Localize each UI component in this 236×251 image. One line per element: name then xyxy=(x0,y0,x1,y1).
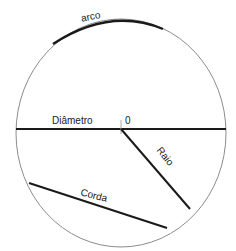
radius-line xyxy=(121,129,190,209)
radius-label: Raio xyxy=(155,145,177,168)
center-label: 0 xyxy=(125,115,131,126)
circle-diagram: arco Diâmetro 0 Raio Corda xyxy=(0,0,236,251)
diameter-label: Diâmetro xyxy=(52,115,93,126)
arc-segment xyxy=(53,21,163,44)
